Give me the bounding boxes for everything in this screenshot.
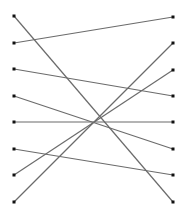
left-node-L8 — [13, 201, 16, 204]
edge-L3-R4 — [14, 69, 173, 96]
left-node-L4 — [13, 95, 16, 98]
diagram-svg — [0, 0, 193, 214]
edge-L6-R7 — [14, 149, 173, 175]
left-node-L3 — [13, 68, 16, 71]
right-node-R2 — [172, 42, 175, 45]
right-node-R6 — [172, 148, 175, 151]
edge-L1-R8 — [14, 16, 173, 202]
edge-group — [14, 16, 173, 202]
edge-L2-R1 — [14, 17, 173, 43]
left-node-L6 — [13, 148, 16, 151]
right-node-R7 — [172, 174, 175, 177]
right-node-R5 — [172, 121, 175, 124]
right-node-R3 — [172, 69, 175, 72]
matching-diagram — [0, 0, 193, 214]
right-node-R4 — [172, 95, 175, 98]
left-node-L7 — [13, 174, 16, 177]
left-node-L2 — [13, 42, 16, 45]
left-node-L1 — [13, 15, 16, 18]
right-node-R8 — [172, 201, 175, 204]
left-node-L5 — [13, 121, 16, 124]
right-node-R1 — [172, 16, 175, 19]
